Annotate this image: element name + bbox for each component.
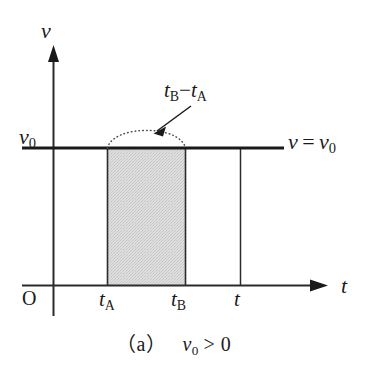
line-equation-rhs-var: v: [319, 129, 329, 154]
caption-condition-relation: > 0: [203, 333, 231, 355]
interval-leader-arrowhead: [154, 127, 167, 137]
y-tick-var: v: [19, 124, 29, 149]
caption-index: （a）: [116, 333, 166, 355]
y-tick-label-v0: v0: [19, 126, 36, 151]
interval-leader-line: [157, 106, 191, 131]
figure-caption: （a）v0 > 0: [116, 334, 231, 357]
shaded-area-region: [108, 149, 186, 285]
figure-canvas: [0, 0, 374, 366]
velocity-time-figure: v t v0 O tA tB t v = v0 tB−tA （a）v0 > 0: [0, 0, 374, 366]
y-axis-arrowhead: [48, 45, 59, 62]
origin-label: O: [22, 288, 36, 308]
caption-condition-sub: 0: [192, 343, 199, 358]
interval-annotation-label: tB−tA: [164, 80, 207, 104]
x-tick-label-tb: tB: [171, 289, 186, 313]
x-tick-t-var: t: [234, 287, 240, 311]
line-equation-lhs: v: [288, 129, 298, 154]
line-equation-label: v = v0: [288, 131, 336, 156]
line-equation-operator: =: [302, 129, 314, 154]
x-axis-arrowhead: [310, 280, 328, 292]
x-axis-label: t: [341, 275, 347, 297]
x-tick-ta-sub: A: [105, 298, 115, 313]
x-tick-tb-sub: B: [177, 298, 186, 313]
interval-minuend-sub: B: [170, 89, 179, 104]
interval-dotted-arc: [108, 130, 186, 148]
x-tick-label-ta: tA: [99, 289, 115, 313]
line-equation-rhs-sub: 0: [329, 140, 336, 156]
interval-operator: −: [179, 78, 191, 102]
x-tick-label-t: t: [234, 289, 240, 310]
y-tick-sub: 0: [29, 135, 36, 151]
y-axis-label: v: [41, 20, 51, 42]
interval-subtrahend-sub: A: [197, 89, 207, 104]
caption-condition-var: v: [182, 333, 191, 355]
